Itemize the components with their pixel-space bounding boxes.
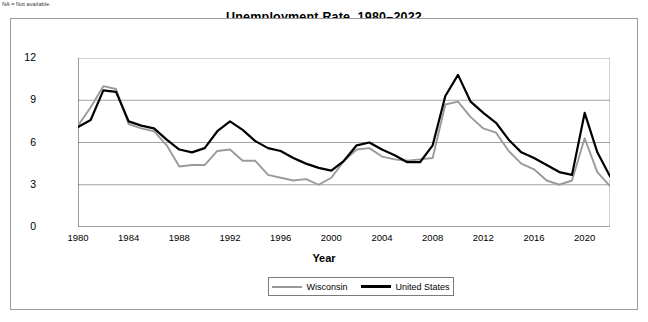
- y-tick-label: 0: [0, 221, 36, 232]
- x-tick-label: 2020: [565, 233, 605, 243]
- y-tick-label: 9: [0, 94, 36, 105]
- legend-label-wisconsin: Wisconsin: [306, 282, 347, 292]
- na-footnote: NA = Not available.: [2, 1, 51, 7]
- x-tick-label: 2016: [514, 233, 554, 243]
- x-axis-label: Year: [0, 252, 648, 264]
- chart-legend: Wisconsin United States: [268, 277, 454, 296]
- x-tick-label: 1984: [109, 233, 149, 243]
- plot-area: [78, 58, 610, 227]
- x-tick-label: 1996: [261, 233, 301, 243]
- x-tick-label: 2008: [413, 233, 453, 243]
- legend-swatch-united-states: [361, 285, 391, 288]
- x-tick-label: 1988: [159, 233, 199, 243]
- x-tick-label: 1980: [58, 233, 98, 243]
- y-tick-label: 3: [0, 179, 36, 190]
- x-tick-label: 2004: [362, 233, 402, 243]
- chart-svg: [78, 58, 610, 227]
- series-lines: [78, 75, 610, 186]
- x-tick-label: 2000: [311, 233, 351, 243]
- legend-item-wisconsin: Wisconsin: [272, 282, 347, 292]
- x-tick-label: 1992: [210, 233, 250, 243]
- gridlines: [78, 58, 610, 185]
- y-tick-label: 12: [0, 52, 36, 63]
- y-tick-label: 6: [0, 137, 36, 148]
- legend-swatch-wisconsin: [272, 286, 302, 288]
- legend-item-united-states: United States: [361, 282, 449, 292]
- legend-label-united-states: United States: [395, 282, 449, 292]
- x-tick-label: 2012: [463, 233, 503, 243]
